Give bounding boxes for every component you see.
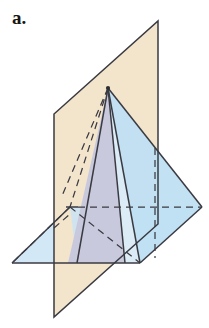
pyramid-cross-section-diagram <box>0 0 209 328</box>
apex-vertex-dot <box>106 86 110 90</box>
figure-container: a. <box>0 0 209 328</box>
